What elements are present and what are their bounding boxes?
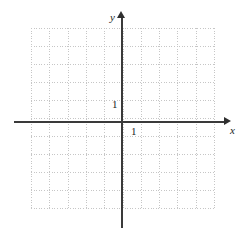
y-axis-arrow-icon	[117, 11, 125, 18]
y-axis-line	[121, 17, 123, 228]
x-axis-label: x	[230, 125, 235, 136]
y-axis-label: y	[110, 12, 115, 23]
x-axis-line	[14, 121, 226, 123]
grid-line-vertical	[214, 28, 215, 208]
x-axis-tick-label-1: 1	[131, 126, 137, 137]
coordinate-plane-figure: y x 1 1	[0, 0, 245, 235]
y-axis-tick-label-1: 1	[112, 99, 118, 110]
